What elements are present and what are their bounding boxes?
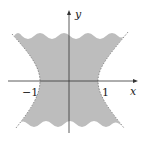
shaded-region xyxy=(14,33,126,127)
region-diagram: y x −1 1 xyxy=(0,0,142,141)
tick-label-pos-one: 1 xyxy=(102,86,109,99)
x-axis-label: x xyxy=(130,85,137,98)
y-axis-label: y xyxy=(74,8,82,21)
tick-label-neg-one: −1 xyxy=(22,86,38,99)
y-axis-arrow-icon xyxy=(67,10,71,15)
x-axis-arrow-icon xyxy=(133,79,138,83)
